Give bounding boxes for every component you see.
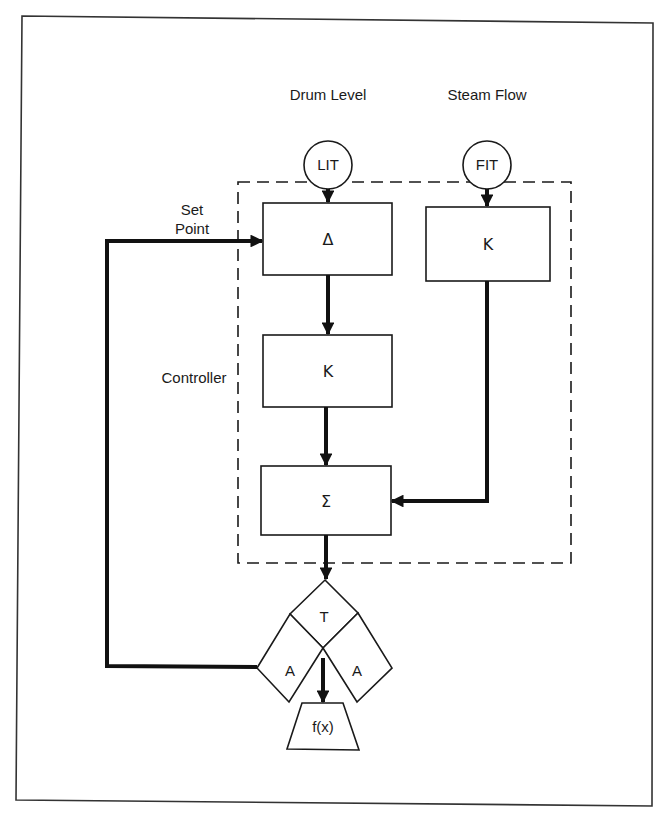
fit-label: FIT <box>476 156 499 173</box>
summer-block: Σ <box>261 466 391 535</box>
final-element-block: f(x) <box>287 703 359 750</box>
level-gain-symbol: K <box>323 362 334 381</box>
final-element-label: f(x) <box>312 718 334 735</box>
fit-transmitter: FIT <box>463 141 511 189</box>
delta-symbol: Δ <box>323 230 334 249</box>
steam-gain-symbol: K <box>483 235 494 254</box>
control-loop-diagram: Drum Level Steam Flow LIT FIT Δ K K Σ <box>0 0 669 815</box>
level-gain-block: K <box>263 335 392 407</box>
set-point-label-line1: Set <box>181 201 204 218</box>
lit-transmitter: LIT <box>304 141 352 189</box>
auto-left-label: A <box>285 662 295 679</box>
steam-gain-block: K <box>426 207 550 281</box>
summer-symbol: Σ <box>321 492 331 511</box>
transfer-label: T <box>319 608 328 625</box>
drum-level-label: Drum Level <box>290 86 367 103</box>
controller-label: Controller <box>161 369 226 386</box>
outer-frame <box>16 16 653 806</box>
set-point-label-line2: Point <box>175 220 210 237</box>
delta-block: Δ <box>263 203 392 275</box>
auto-right-label: A <box>352 662 362 679</box>
set-point-feedback-arrow <box>107 241 262 667</box>
steam-feedforward-arrow <box>392 281 487 501</box>
lit-label: LIT <box>317 156 339 173</box>
steam-flow-label: Steam Flow <box>447 86 526 103</box>
